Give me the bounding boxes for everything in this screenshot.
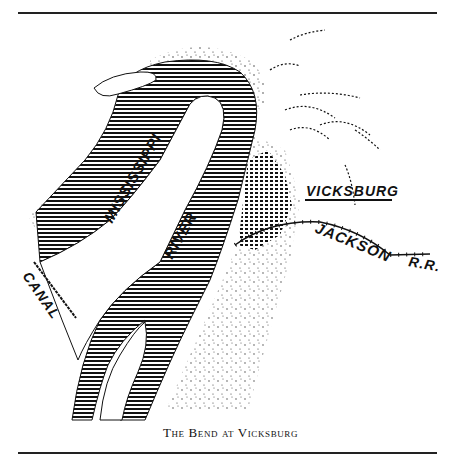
label-vicksburg: VICKSBURG xyxy=(306,183,399,199)
label-rr: R.R. xyxy=(407,253,441,274)
map-caption: The Bend at Vicksburg xyxy=(0,425,461,441)
label-jackson: JACKSON xyxy=(313,219,394,265)
vicksburg-map: MISSISSIPPI RIVER VICKSBURG JACKSON R.R.… xyxy=(0,0,461,463)
bottom-rule xyxy=(18,452,437,454)
